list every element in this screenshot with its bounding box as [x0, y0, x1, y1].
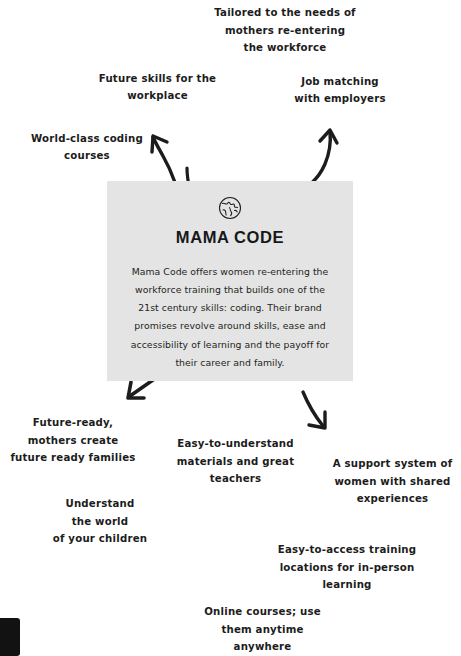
note-easy-to-access: Easy-to-access training locations for in… [272, 542, 422, 594]
globe-icon [107, 195, 353, 221]
corner-mark [0, 618, 20, 656]
card-title: MAMA CODE [107, 228, 353, 247]
note-world-class-coding: World-class coding courses [22, 130, 152, 164]
note-online-courses: Online courses; use them anytime anywher… [200, 604, 325, 656]
note-future-skills: Future skills for the workplace [85, 70, 230, 104]
note-job-matching: Job matching with employers [285, 73, 395, 107]
mama-code-card: MAMA CODE Mama Code offers women re-ente… [107, 181, 353, 381]
note-tailored-to-needs: Tailored to the needs of mothers re-ente… [205, 5, 365, 57]
note-understand-the-world: Understand the world of your children [45, 496, 155, 548]
note-future-ready: Future-ready, mothers create future read… [8, 415, 138, 467]
note-easy-to-understand: Easy-to-understand materials and great t… [168, 436, 303, 488]
card-description: Mama Code offers women re-entering the w… [129, 263, 331, 372]
note-support-system: A support system of women with shared ex… [330, 456, 455, 508]
infographic-canvas: MAMA CODE Mama Code offers women re-ente… [0, 0, 461, 656]
arrow-to-bottom-right [303, 392, 325, 428]
